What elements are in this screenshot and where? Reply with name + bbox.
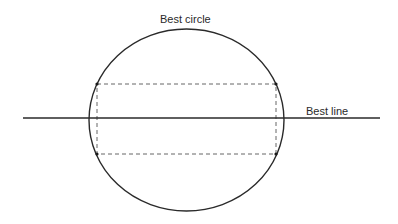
best-circle-label: Best circle [160,14,211,25]
point-bottom-left [95,152,98,155]
point-top-right [274,82,277,85]
dashed-rectangle [97,84,276,154]
point-top-left [95,82,98,85]
best-circle [89,29,284,211]
point-bottom-right [274,152,277,155]
best-line-label: Best line [306,106,348,117]
